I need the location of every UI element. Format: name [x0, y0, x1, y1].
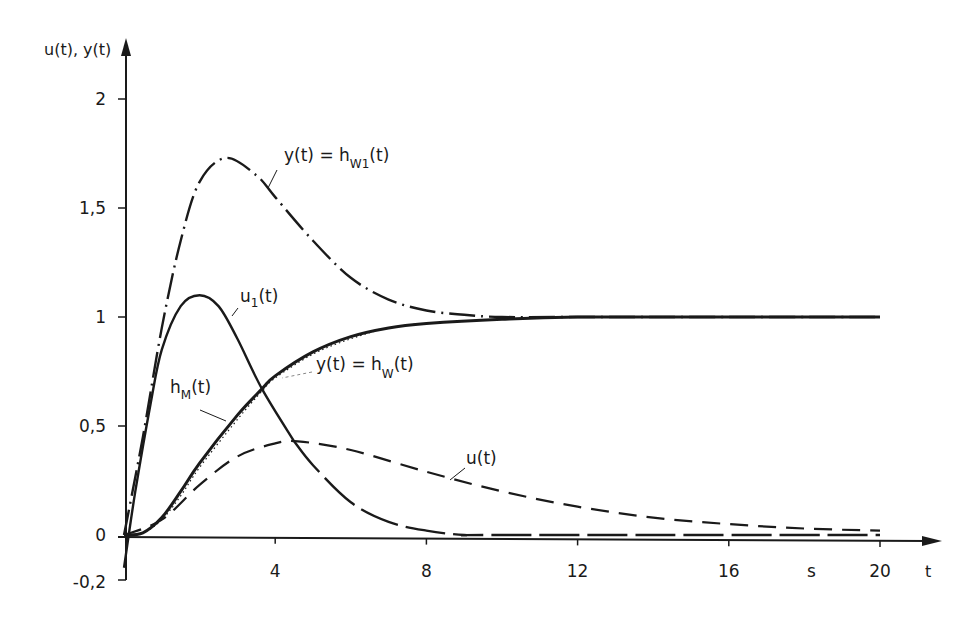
curve-u-t- — [124, 441, 880, 535]
x-tick-label: 20 — [869, 561, 891, 581]
curves — [124, 158, 880, 568]
label-u1: u1(t) — [232, 286, 278, 316]
x-tick-label: 16 — [718, 561, 740, 581]
svg-text:y(t) = hW(t): y(t) = hW(t) — [316, 354, 414, 381]
y-tick-label: -0,2 — [73, 572, 106, 592]
curve-y-t-h-w-t- — [124, 317, 880, 535]
y-tick-label: 0 — [95, 525, 106, 545]
y-tick-label: 1,5 — [79, 198, 106, 218]
svg-text:u(t): u(t) — [466, 448, 497, 468]
svg-text:u1(t): u1(t) — [240, 286, 278, 310]
x-axis — [118, 536, 942, 546]
y-axis-title: u(t), y(t) — [44, 40, 111, 59]
x-axis-unit: s — [807, 561, 816, 581]
svg-text:y(t) = hW1(t): y(t) = hW1(t) — [284, 145, 389, 171]
label-hw1: y(t) = hW1(t) — [268, 145, 389, 188]
y-tick-label: 2 — [95, 89, 106, 109]
x-axis-arrow-icon — [922, 536, 942, 546]
x-axis-title: t — [925, 562, 931, 581]
curve-h-m-t- — [124, 317, 880, 535]
y-tick-label: 0,5 — [79, 416, 106, 436]
label-hm: hM(t) — [170, 377, 226, 421]
x-ticks: 48121620 — [270, 538, 891, 581]
x-tick-label: 8 — [421, 561, 432, 581]
label-u: u(t) — [450, 448, 497, 480]
svg-text:hM(t): hM(t) — [170, 377, 211, 402]
chart: 21,510,50-0,2 48121620 u(t), y(t) t s y(… — [0, 0, 977, 623]
y-tick-label: 1 — [95, 307, 106, 327]
y-axis — [118, 38, 131, 580]
x-tick-label: 12 — [567, 561, 589, 581]
x-tick-label: 4 — [270, 561, 281, 581]
curve-u1-dashed — [294, 441, 880, 535]
y-axis-arrow-icon — [121, 38, 131, 56]
curve-y-t-h-w1-t- — [124, 158, 880, 535]
curve-u1-solid — [124, 295, 294, 568]
y-ticks: 21,510,50-0,2 — [73, 89, 126, 592]
